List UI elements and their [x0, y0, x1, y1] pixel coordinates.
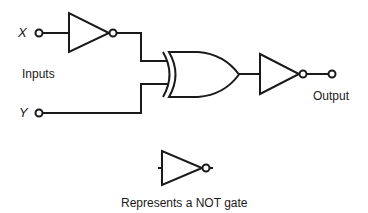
legend-not-gate-symbol: [158, 151, 213, 185]
legend-caption: Represents a NOT gate: [121, 196, 248, 210]
logic-circuit-diagram: [0, 0, 368, 213]
input-x-terminal: [36, 30, 43, 37]
wire-y-to-xor: [43, 84, 169, 113]
output-label: Output: [313, 89, 349, 103]
input-x-label: X: [18, 26, 27, 40]
not-gate-2: [260, 54, 307, 94]
wire-not1-to-xor: [117, 33, 169, 61]
output-terminal: [329, 71, 336, 78]
xor-gate: [163, 52, 239, 97]
inputs-label: Inputs: [22, 67, 55, 81]
input-y-label: Y: [19, 106, 28, 120]
input-y-terminal: [36, 110, 43, 117]
not-gate-1: [69, 13, 117, 52]
